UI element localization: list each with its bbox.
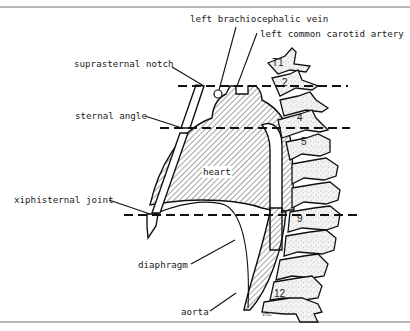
label-sternal-angle: sternal angle: [75, 110, 147, 121]
label-xiphisternal-joint: xiphisternal joint: [14, 194, 114, 205]
leader-aorta: [210, 293, 236, 311]
leader-xiphisternal-joint: [109, 200, 150, 214]
leader-suprasternal-notch: [172, 67, 204, 86]
leader-brachiocephalic-vein: [219, 27, 236, 90]
label-suprasternal-notch: suprasternal notch: [74, 58, 174, 69]
vertebra-t12: [262, 298, 322, 322]
label-aorta: aorta: [181, 306, 209, 317]
vertebra-t5: [286, 134, 330, 160]
vertebra-t10: [276, 254, 328, 280]
leader-diaphragm: [191, 240, 235, 264]
vertebra-t6: [292, 158, 338, 184]
vertebra-t8: [288, 206, 340, 232]
svg-text:4: 4: [297, 112, 303, 123]
label-left-common-carotid-artery: left common carotid artery: [260, 28, 404, 39]
svg-text:12: 12: [274, 288, 286, 299]
heart-label: heart: [203, 166, 231, 177]
leader-sternal-angle: [145, 116, 179, 127]
vertebra-t9: [284, 230, 336, 256]
leader-left-common-carotid: [237, 33, 257, 86]
thorax-diagram: heart T1 2 4 5 9 12 VHC: [0, 0, 410, 331]
diaphragm-curve: [152, 202, 248, 308]
left-brachiocephalic-vein-circle: [214, 90, 222, 98]
artist-signature: VHC: [262, 312, 272, 317]
vertebra-t7: [292, 182, 340, 208]
svg-text:5: 5: [301, 136, 307, 147]
svg-text:T1: T1: [272, 57, 284, 68]
label-left-brachiocephalic-vein: left brachiocephalic vein: [190, 13, 328, 24]
label-diaphragm: diaphragm: [138, 259, 188, 270]
